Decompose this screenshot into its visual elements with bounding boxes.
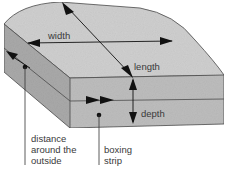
distance-label-line1: distance [31, 133, 66, 144]
length-label: length [134, 61, 160, 72]
boxing-label-line1: boxing [104, 144, 132, 155]
distance-label-line2: around the [31, 144, 76, 155]
boxing-label-line2: strip [104, 155, 122, 166]
cushion-diagram: width length depth distance around the o… [0, 0, 230, 169]
distance-label-line3: outside [31, 155, 62, 166]
width-label: width [47, 30, 70, 41]
depth-label: depth [141, 108, 165, 119]
